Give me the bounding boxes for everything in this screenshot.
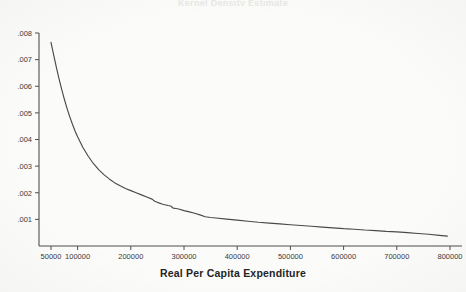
x-tick-label: 100000 <box>65 252 90 261</box>
y-tick-label: .006 <box>17 82 32 91</box>
x-tick-label: 600000 <box>331 252 356 261</box>
x-tick-label: 200000 <box>118 252 143 261</box>
x-tick-label: 50000 <box>41 252 62 261</box>
x-axis-title: Real Per Capita Expenditure <box>0 267 466 279</box>
density-curve <box>51 42 447 236</box>
y-tick-label: .005 <box>17 109 32 118</box>
x-axis-tick-marks <box>51 246 450 250</box>
chart-figure: Kernel Density Estimate .001.002.003.004… <box>0 0 466 292</box>
x-tick-label: 400000 <box>225 252 250 261</box>
x-tick-label: 800000 <box>437 252 462 261</box>
y-axis-tick-marks <box>35 33 39 219</box>
y-tick-label: .002 <box>17 189 32 198</box>
x-tick-label: 700000 <box>384 252 409 261</box>
density-line-chart: .001.002.003.004.005.006.007.008 5000010… <box>0 0 466 292</box>
x-axis-tick-labels: 5000010000020000030000040000050000060000… <box>41 252 463 261</box>
x-tick-label: 500000 <box>278 252 303 261</box>
x-tick-label: 300000 <box>171 252 196 261</box>
y-tick-label: .003 <box>17 162 32 171</box>
y-tick-label: .007 <box>17 55 32 64</box>
y-axis-tick-labels: .001.002.003.004.005.006.007.008 <box>17 29 32 224</box>
y-tick-label: .008 <box>17 29 32 38</box>
y-tick-label: .004 <box>17 135 32 144</box>
y-tick-label: .001 <box>17 215 32 224</box>
